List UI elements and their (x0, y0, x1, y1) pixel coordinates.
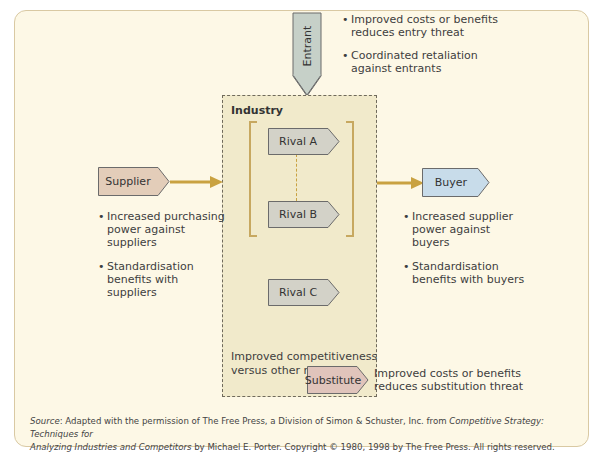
industry-to-buyer-arrow (377, 176, 425, 190)
supplier-bullet-1-line-3: suppliers (107, 236, 225, 249)
entrant-bullet-2-line-1: Coordinated retaliation (351, 49, 478, 62)
supplier-bullet-2: Standardisation benefits with suppliers (107, 260, 194, 299)
entrant-arrow-tip (292, 74, 322, 98)
entrant-label: Entrant (301, 26, 314, 67)
rival-b-box: Rival B (268, 201, 340, 228)
source-title-2: Analyzing Industries and Competitors (30, 442, 191, 452)
source-line-1: Source: Adapted with the permission of T… (30, 415, 590, 441)
rival-c-label: Rival C (268, 279, 328, 306)
buyer-bullet-1-line-1: Increased supplier (412, 210, 513, 223)
supplier-to-industry-arrow (170, 175, 224, 189)
buyer-label: Buyer (422, 168, 480, 197)
supplier-bullet-2-line-3: suppliers (107, 286, 194, 299)
supplier-box: Supplier (98, 167, 170, 196)
buyer-bullet-1: Increased supplier power against buyers (412, 210, 513, 249)
entrant-bullet-1-line-1: Improved costs or benefits (351, 13, 498, 26)
right-bracket (346, 121, 354, 237)
substitute-note: Improved costs or benefits reduces subst… (347, 367, 523, 393)
supplier-bullet-1-line-1: Increased purchasing (107, 210, 225, 223)
source-text-1: : Adapted with the permission of The Fre… (60, 416, 450, 426)
rival-c-box: Rival C (268, 279, 340, 306)
substitute-note-line-1: Improved costs or benefits (374, 367, 523, 380)
entrant-bullet-1: Improved costs or benefits reduces entry… (351, 13, 498, 39)
left-bracket (249, 121, 257, 237)
supplier-bullet-2-line-2: benefits with (107, 273, 194, 286)
entrant-bullet-2: Coordinated retaliation against entrants (351, 49, 478, 75)
entrant-bullet-1-line-2: reduces entry threat (351, 26, 498, 39)
rival-connector-line (296, 154, 297, 201)
buyer-bullet-2-line-2: benefits with buyers (412, 273, 524, 286)
entrant-bullet-2-line-2: against entrants (351, 62, 478, 75)
industry-label: Industry (231, 104, 283, 117)
buyer-box: Buyer (422, 168, 490, 197)
supplier-bullet-1: Increased purchasing power against suppl… (107, 210, 225, 249)
rival-a-label: Rival A (268, 128, 328, 155)
supplier-label: Supplier (98, 167, 158, 196)
rival-b-label: Rival B (268, 201, 328, 228)
buyer-bullet-1-line-3: buyers (412, 236, 513, 249)
rival-a-box: Rival A (268, 128, 340, 155)
buyer-bullet-1-line-2: power against (412, 223, 513, 236)
buyer-bullet-2: Standardisation benefits with buyers (412, 260, 524, 286)
industry-note-line-1: Improved competitiveness (231, 350, 377, 364)
buyer-bullet-2-line-1: Standardisation (412, 260, 524, 273)
supplier-bullet-1-line-2: power against (107, 223, 225, 236)
supplier-bullet-2-line-1: Standardisation (107, 260, 194, 273)
source-label: Source (30, 416, 60, 426)
source-text-2: by Michael E. Porter. Copyright © 1980, … (191, 442, 554, 452)
substitute-note-line-2: reduces substitution threat (374, 380, 523, 393)
source-line-2: Analyzing Industries and Competitors by … (30, 441, 590, 454)
source-citation: Source: Adapted with the permission of T… (30, 415, 590, 454)
